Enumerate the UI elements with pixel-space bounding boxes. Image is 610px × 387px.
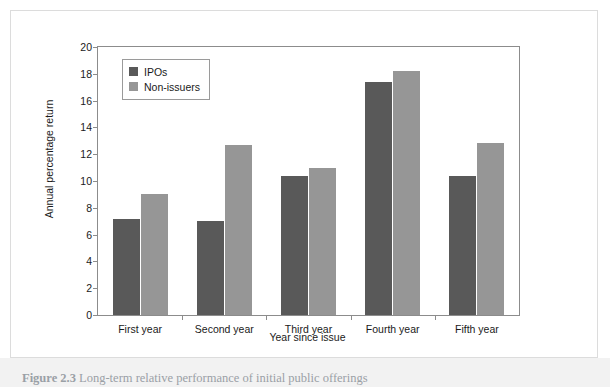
legend-label-non-issuers: Non-issuers [144,81,200,93]
y-axis-tick-label: 0 [86,309,92,321]
y-axis-tick-label: 2 [86,282,92,294]
bar-group [351,47,435,315]
y-axis-tick-label: 12 [80,148,92,160]
x-axis-tick-mark [182,315,183,320]
figure-caption: Figure 2.3 Long-term relative performanc… [22,371,368,386]
y-axis-tick-label: 4 [86,255,92,267]
x-axis-title: Year since issue [97,331,518,343]
bar-chart: Annual percentage return 024681012141618… [11,11,599,359]
chart-legend: IPOs Non-issuers [122,59,210,100]
y-axis-tick-label: 6 [86,229,92,241]
bar-non-issuers [309,168,336,315]
x-axis-tick-mark [266,315,267,320]
x-axis-tick-mark [435,315,436,320]
bar-ipos [281,176,308,315]
legend-item-non-issuers: Non-issuers [129,79,200,94]
figure-caption-text: Long-term relative performance of initia… [79,371,368,385]
y-axis-tick-mark [93,315,98,316]
x-axis-tick-mark [351,315,352,320]
legend-item-ipos: IPOs [129,64,200,79]
y-axis-tick-label: 18 [80,68,92,80]
y-axis-tick-label: 10 [80,175,92,187]
y-axis-title: Annual percentage return [43,59,55,259]
bar-non-issuers [393,71,420,315]
bar-ipos [113,219,140,315]
legend-swatch-icon-ipos [129,67,138,76]
legend-swatch-icon-non-issuers [129,82,138,91]
y-axis-tick-label: 20 [80,41,92,53]
legend-label-ipos: IPOs [144,66,167,78]
bar-ipos [449,176,476,315]
y-axis-tick-label: 16 [80,95,92,107]
bar-non-issuers [141,194,168,315]
bar-ipos [365,82,392,315]
y-axis-tick-label: 14 [80,121,92,133]
figure-panel: Annual percentage return 024681012141618… [10,10,598,358]
bar-group [266,47,350,315]
bar-non-issuers [477,143,504,315]
figure-caption-label: Figure 2.3 [22,371,76,385]
bar-non-issuers [225,145,252,315]
y-axis-tick-label: 8 [86,202,92,214]
bar-group [435,47,519,315]
bar-ipos [197,221,224,315]
